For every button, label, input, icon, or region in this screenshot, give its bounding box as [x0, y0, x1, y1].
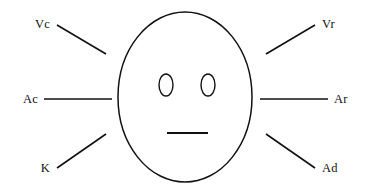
cue-label-ad: Ad — [322, 161, 338, 175]
left-eye-icon — [159, 74, 173, 96]
cue-label-vc: Vc — [35, 17, 50, 31]
face-outline — [118, 12, 252, 182]
cue-group-ar: Ar — [260, 92, 348, 106]
cue-group-ad: Ad — [266, 134, 338, 175]
diagram-canvas: Vc Ac K Vr Ar Ad — [0, 0, 379, 192]
cue-group-vr: Vr — [266, 17, 335, 54]
cue-label-ac: Ac — [23, 92, 38, 106]
cue-group-vc: Vc — [35, 17, 106, 54]
leader-line-ad — [266, 134, 315, 168]
leader-line-vc — [57, 25, 106, 54]
face-cue-diagram: Vc Ac K Vr Ar Ad — [0, 0, 379, 192]
cue-label-ar: Ar — [334, 92, 348, 106]
cue-group-ac: Ac — [23, 92, 112, 106]
leader-line-k — [57, 134, 106, 168]
cue-label-k: K — [41, 161, 50, 175]
leader-line-vr — [266, 25, 315, 54]
cue-group-k: K — [41, 134, 106, 175]
cue-label-vr: Vr — [322, 17, 335, 31]
right-eye-icon — [201, 74, 215, 96]
